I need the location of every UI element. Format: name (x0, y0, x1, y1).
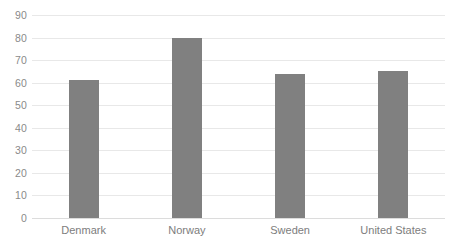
y-axis-tick-label: 50 (0, 100, 27, 111)
plot-area (32, 15, 445, 218)
bar[interactable] (275, 74, 305, 218)
bar[interactable] (378, 71, 408, 218)
bar[interactable] (69, 80, 99, 218)
y-axis-tick-label: 70 (0, 55, 27, 66)
axis-baseline (32, 218, 445, 219)
y-axis-tick-label: 60 (0, 78, 27, 89)
gridline (32, 15, 445, 16)
bar-chart: 9080706050403020100 DenmarkNorwaySwedenU… (0, 0, 455, 249)
y-axis-tick-label: 10 (0, 190, 27, 201)
x-axis-tick-label: Norway (135, 224, 238, 237)
x-axis-tick-label: United States (342, 224, 445, 237)
x-axis-tick-label: Sweden (239, 224, 342, 237)
y-axis-tick-label: 20 (0, 168, 27, 179)
y-axis-tick-label: 0 (0, 213, 27, 224)
gridline (32, 38, 445, 39)
bar[interactable] (172, 38, 202, 218)
y-axis-tick-label: 40 (0, 123, 27, 134)
y-axis-tick-labels: 9080706050403020100 (0, 15, 27, 218)
gridline (32, 60, 445, 61)
y-axis-tick-label: 80 (0, 33, 27, 44)
x-axis-tick-labels: DenmarkNorwaySwedenUnited States (32, 224, 445, 244)
x-axis-tick-label: Denmark (32, 224, 135, 237)
y-axis-tick-label: 90 (0, 10, 27, 21)
y-axis-tick-label: 30 (0, 145, 27, 156)
